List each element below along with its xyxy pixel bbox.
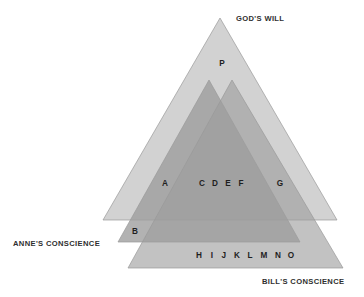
letter-j: J: [222, 251, 227, 260]
letter-e: E: [225, 179, 231, 188]
letter-i: I: [211, 251, 213, 260]
bills-conscience-label: BILL'S CONSCIENCE: [262, 277, 344, 286]
letter-m: M: [260, 251, 267, 260]
letter-o: O: [288, 251, 295, 260]
letter-n: N: [275, 251, 281, 260]
letter-d: D: [212, 179, 218, 188]
letter-g: G: [277, 179, 284, 188]
letter-h: H: [196, 251, 202, 260]
annes-conscience-label: ANNE'S CONSCIENCE: [13, 239, 100, 248]
letter-f: F: [238, 179, 243, 188]
venn-diagram-canvas: PACDEFGBHIJKLMNO GOD'S WILLANNE'S CONSCI…: [0, 0, 364, 297]
letter-k: K: [234, 251, 240, 260]
letter-b: B: [132, 227, 138, 236]
venn-diagram: PACDEFGBHIJKLMNO GOD'S WILLANNE'S CONSCI…: [0, 0, 364, 297]
letter-l: L: [247, 251, 252, 260]
letter-c: C: [199, 179, 205, 188]
gods-will-label: GOD'S WILL: [236, 14, 284, 23]
letter-a: A: [162, 179, 168, 188]
letter-p: P: [219, 59, 225, 68]
